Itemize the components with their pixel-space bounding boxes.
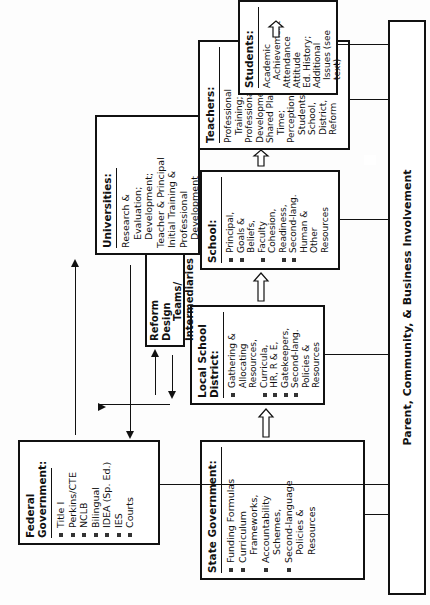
students-line: Ed. History;	[302, 7, 312, 88]
state-item: Policies &	[294, 447, 306, 573]
arrow-head-right	[71, 259, 79, 267]
school-item: Faculty	[257, 177, 268, 263]
district-title-line2: District:	[208, 312, 220, 398]
short-arrow-reform	[155, 355, 156, 395]
school-item: Resources	[320, 177, 331, 263]
hollow-arrow-district-school	[250, 271, 276, 303]
students-line: Additional	[312, 7, 322, 88]
hollow-arrow-school-teachers	[250, 148, 276, 168]
district-item: Resources	[311, 312, 322, 398]
state-government-box: State Government: Funding Formulas Curri…	[200, 440, 365, 580]
state-item: Second-language	[283, 447, 295, 573]
federal-title: Federal Government:	[24, 468, 52, 538]
federal-item: NCLB	[78, 447, 90, 538]
short-arrow-reform-back	[172, 355, 173, 395]
reform-title-line3: Intermediaries	[184, 258, 196, 341]
district-items: Gathering & Allocating Resources, Curric…	[227, 312, 322, 398]
school-items: Principal, Goals & Beliefs, Faculty Cohe…	[225, 177, 330, 263]
district-item: Resources,	[248, 312, 259, 398]
long-arrow-to-reform	[130, 265, 131, 435]
parent-bar	[364, 155, 372, 165]
arrow-head-left	[126, 431, 134, 439]
students-to-parent-line	[338, 44, 388, 45]
district-to-parent-line	[325, 354, 388, 355]
district-item: Allocating	[238, 312, 249, 398]
district-item: Curricula,	[259, 312, 270, 398]
federal-item: Perkins/CTE	[67, 447, 79, 538]
students-line: text)	[332, 7, 342, 88]
arrow-head-right	[98, 403, 106, 411]
state-to-parent-line	[365, 514, 388, 515]
district-title: Local School District:	[196, 312, 224, 398]
local-school-district-box: Local School District: Gathering & Alloc…	[190, 305, 325, 405]
school-item: Second-lang.	[288, 177, 299, 263]
district-item: Gatekeepers,	[280, 312, 291, 398]
universities-line: Teacher & Principal	[155, 122, 167, 248]
state-item: Resources	[306, 447, 318, 573]
district-item: HR, R & E,	[269, 312, 280, 398]
teachers-to-parent-line	[350, 99, 388, 100]
students-box: Students: Academic Achievement Attendanc…	[238, 0, 338, 95]
federal-to-reform-line	[100, 404, 170, 405]
school-item: Readiness,	[278, 177, 289, 263]
district-item: Gathering &	[227, 312, 238, 398]
teachers-line: Professional	[223, 47, 234, 143]
universities-line: Initial Training &	[166, 122, 178, 248]
universities-line: Research &	[120, 122, 132, 248]
universities-lines: Research & Evaluation; Development; Teac…	[120, 122, 201, 248]
federal-item: Title I	[55, 447, 67, 538]
reform-design-teams-box: Reform Design Teams/ Intermediaries	[145, 252, 185, 347]
federal-item: Courts	[124, 447, 136, 538]
reform-title-line1: Reform Design	[149, 258, 172, 341]
school-item: Beliefs,	[246, 177, 257, 263]
teachers-title: Teachers:	[204, 47, 220, 143]
state-item: Accountability	[260, 447, 272, 573]
arrow-head-left	[168, 391, 176, 399]
hollow-arrow-state-district	[255, 407, 281, 439]
federal-item: IES	[113, 447, 125, 538]
universities-line: Development;	[143, 122, 155, 248]
students-line: Issues (see	[322, 7, 332, 88]
district-title-line1: Local School	[196, 312, 208, 398]
district-item: Policies &	[301, 312, 312, 398]
reform-title-line2: Teams/	[172, 258, 184, 341]
school-to-parent-line	[340, 219, 388, 220]
universities-line: Professional	[178, 122, 190, 248]
universities-line: Evaluation;	[132, 122, 144, 248]
school-item: Other	[309, 177, 320, 263]
bottom-involvement-bar: Parent, Community, & Business Involvemen…	[388, 20, 426, 595]
state-item: Schemes,	[271, 447, 283, 573]
students-title: Students:	[243, 7, 259, 88]
long-arrow-to-universities	[75, 265, 76, 435]
state-items: Funding Formulas Curriculum Frameworks, …	[225, 447, 317, 573]
school-title: School:	[206, 177, 222, 263]
arrow-head-right	[151, 349, 159, 357]
state-item: Funding Formulas	[225, 447, 237, 573]
diagram-frame: Federal Government: Title I Perkins/CTE …	[0, 0, 430, 605]
school-item: Human &	[299, 177, 310, 263]
state-title: State Government:	[206, 447, 222, 573]
federal-item: Bilingual	[90, 447, 102, 538]
school-item: Principal,	[225, 177, 236, 263]
school-item: Goals &	[236, 177, 247, 263]
federal-to-parent-line	[160, 484, 388, 485]
universities-title: Universities:	[101, 168, 117, 248]
universities-box: Universities: Research & Evaluation; Dev…	[95, 115, 200, 255]
students-line: Attitude	[292, 7, 302, 88]
parent-bar-label: Parent, Community, & Business Involvemen…	[401, 170, 414, 446]
state-item: Frameworks,	[248, 447, 260, 573]
district-item: Second-lang.	[290, 312, 301, 398]
federal-government-box: Federal Government: Title I Perkins/CTE …	[18, 440, 160, 545]
state-item: Curriculum	[237, 447, 249, 573]
federal-item: IDEA (Sp. Ed.)	[101, 447, 113, 538]
federal-items: Title I Perkins/CTE NCLB Bilingual IDEA …	[55, 447, 136, 538]
hollow-arrow-teachers-students	[265, 19, 291, 39]
school-box: School: Principal, Goals & Beliefs, Facu…	[200, 170, 340, 270]
diagram-landscape: Federal Government: Title I Perkins/CTE …	[0, 0, 430, 605]
school-item: Cohesion,	[267, 177, 278, 263]
